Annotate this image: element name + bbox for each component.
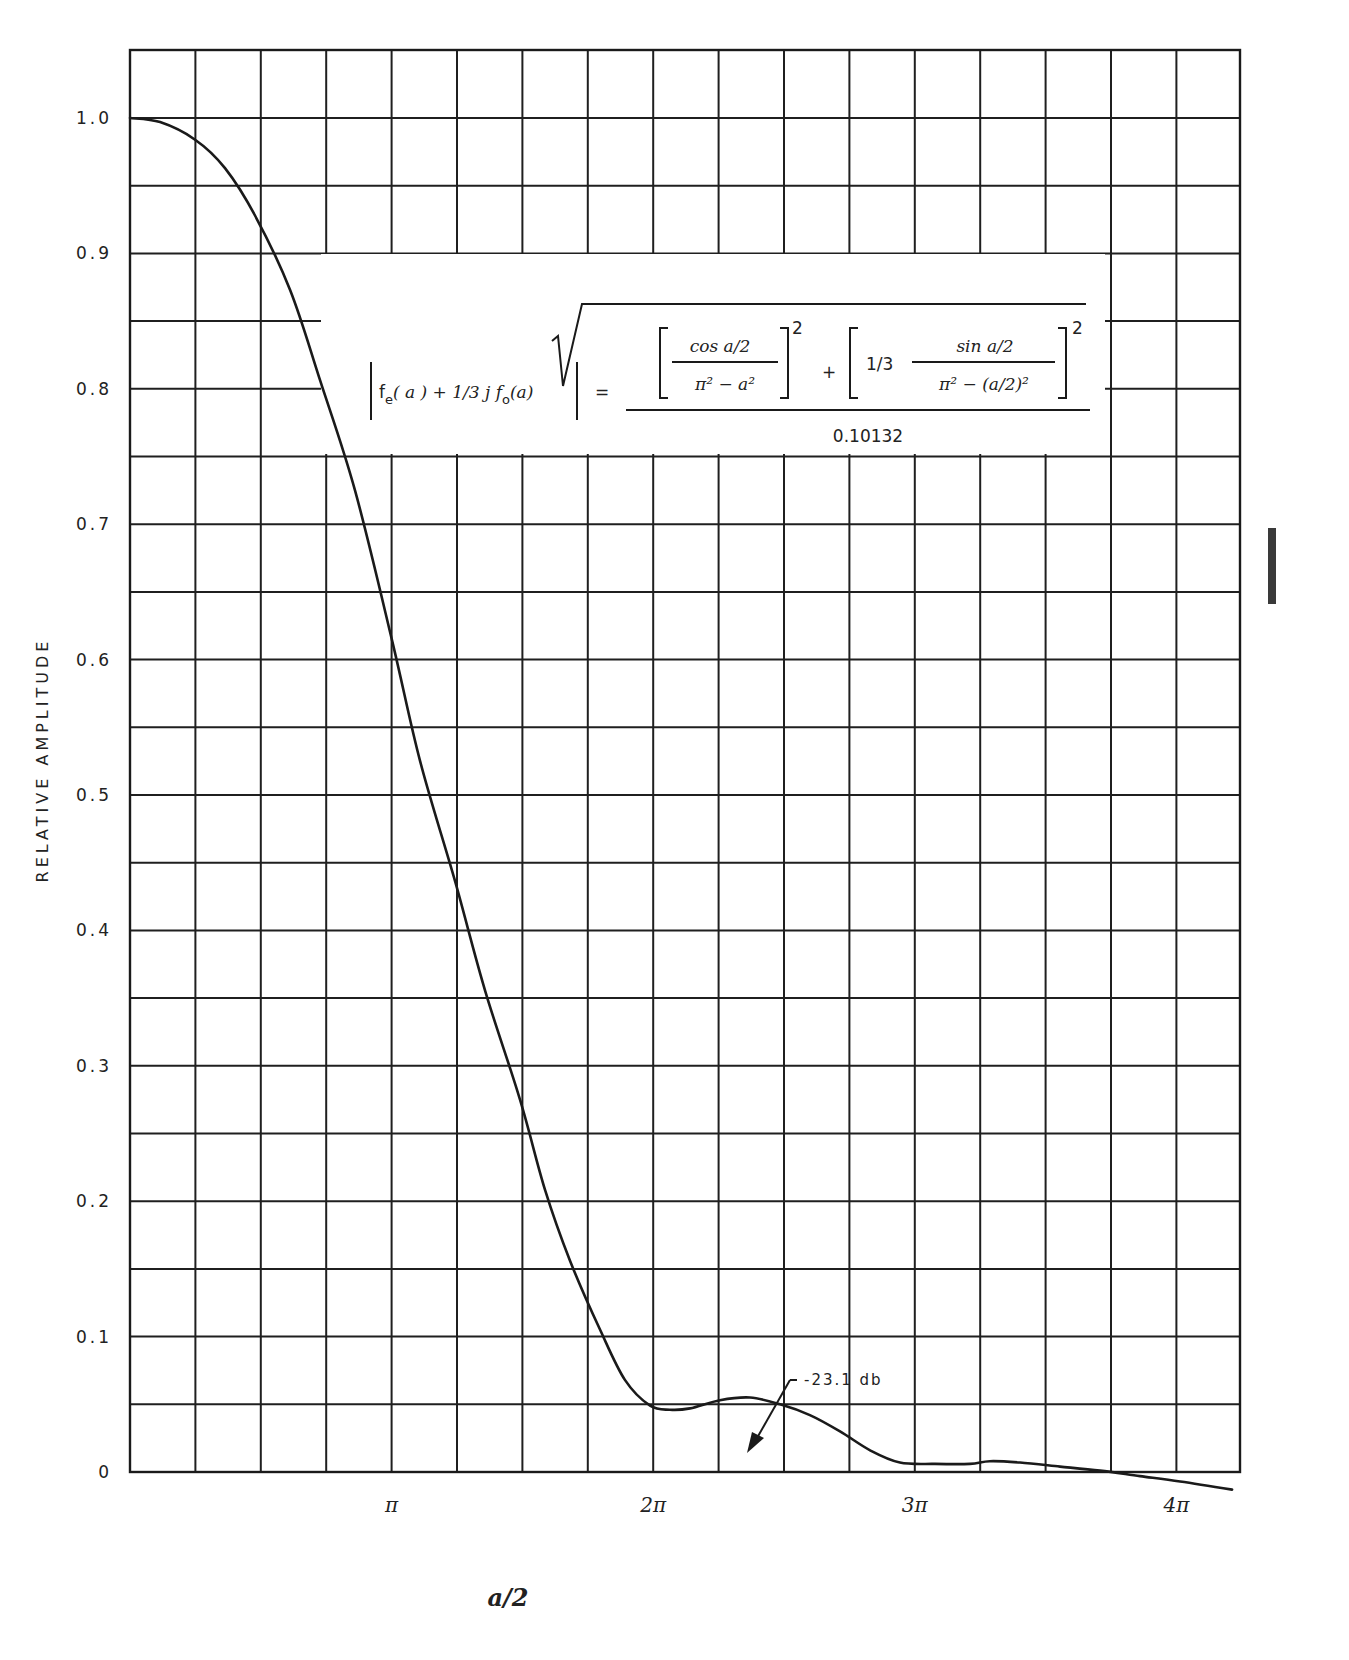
x-axis-ticks: π2π3π4π [384, 1493, 1190, 1517]
arrow-head-icon [747, 1432, 764, 1453]
y-axis-label: RELATIVE AMPLITUDE [33, 638, 52, 883]
y-tick-label: 0.3 [76, 1056, 112, 1076]
y-tick-label: 0.7 [76, 514, 112, 534]
svg-text:2: 2 [792, 318, 803, 338]
y-tick-label: 0.6 [76, 650, 112, 670]
y-tick-label: 0.2 [76, 1191, 112, 1211]
arrow-line [757, 1380, 790, 1438]
eq-den2: π² − (a/2)² [938, 374, 1029, 394]
x-tick-label: 4π [1162, 1493, 1190, 1517]
y-axis-ticks: 00.10.20.30.40.50.60.70.80.91.0 [76, 108, 112, 1482]
x-tick-label: π [384, 1493, 399, 1517]
scan-edge-mark [1268, 528, 1276, 604]
eq-third: 1/3 [866, 354, 893, 374]
eq-denominator: 0.10132 [833, 426, 903, 446]
annotation-text: -23.1 db [804, 1371, 883, 1389]
y-tick-label: 0.5 [76, 785, 112, 805]
peak-annotation: -23.1 db [747, 1371, 883, 1453]
x-tick-label: 3π [902, 1493, 929, 1517]
y-tick-label: 0.4 [76, 920, 112, 940]
y-tick-label: 0.9 [76, 243, 112, 263]
y-tick-label: 1.0 [76, 108, 112, 128]
amplitude-chart: 00.10.20.30.40.50.60.70.80.91.0 π2π3π4π … [0, 0, 1349, 1660]
svg-text:2: 2 [1072, 318, 1083, 338]
y-tick-label: 0 [98, 1462, 112, 1482]
eq-sin: sin a/2 [956, 336, 1013, 356]
x-tick-label: 2π [639, 1493, 667, 1517]
eq-cos: cos a/2 [690, 336, 751, 356]
y-tick-label: 0.1 [76, 1327, 112, 1347]
x-axis-label: a/2 [487, 1583, 528, 1612]
eq-equals: = [595, 382, 609, 402]
eq-den1: π² − a² [694, 374, 755, 394]
y-tick-label: 0.8 [76, 379, 112, 399]
eq-plus: + [822, 362, 836, 382]
